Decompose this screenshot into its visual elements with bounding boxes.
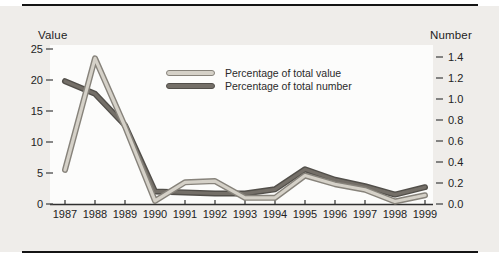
right-tick-label: 0.4 <box>448 156 463 168</box>
right-tick-label: 0.0 <box>448 198 463 210</box>
year-label: 1994 <box>263 208 287 220</box>
year-label: 1995 <box>293 208 317 220</box>
left-tick-label: 20 <box>31 74 43 86</box>
number-series-line <box>65 81 425 194</box>
number-series-line-edge <box>65 81 425 194</box>
year-label: 1990 <box>143 208 167 220</box>
right-tick-label: 0.6 <box>448 135 463 147</box>
chart-legend: Percentage of total value Percentage of … <box>166 68 352 91</box>
year-label: 1997 <box>353 208 377 220</box>
right-tick-label: 1.4 <box>448 51 463 63</box>
right-tick-label: 0.2 <box>448 177 463 189</box>
right-tick-label: 0.8 <box>448 114 463 126</box>
left-tick-label: 0 <box>37 198 43 210</box>
year-label: 1988 <box>83 208 107 220</box>
year-label: 1999 <box>413 208 437 220</box>
chart-canvas: 1987198819891990199119921993199419951996… <box>0 0 499 266</box>
year-label: 1989 <box>113 208 137 220</box>
value-series-swatch <box>166 70 215 76</box>
number-series-swatch <box>166 83 215 89</box>
left-tick-label: 15 <box>31 105 43 117</box>
legend-item-number: Percentage of total number <box>166 81 352 91</box>
right-tick-label: 1.2 <box>448 72 463 84</box>
left-tick-label: 5 <box>37 167 43 179</box>
year-label: 1993 <box>233 208 257 220</box>
year-label: 1991 <box>173 208 197 220</box>
year-label: 1996 <box>323 208 347 220</box>
right-tick-label: 1.0 <box>448 93 463 105</box>
left-tick-label: 10 <box>31 136 43 148</box>
legend-label-number: Percentage of total number <box>225 80 352 92</box>
year-label: 1998 <box>383 208 407 220</box>
left-tick-label: 25 <box>31 43 43 55</box>
year-label: 1987 <box>53 208 77 220</box>
legend-label-value: Percentage of total value <box>225 67 341 79</box>
legend-item-value: Percentage of total value <box>166 68 352 78</box>
year-label: 1992 <box>203 208 227 220</box>
